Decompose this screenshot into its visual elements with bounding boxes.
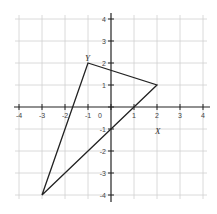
point-label-x: X xyxy=(154,126,161,136)
y-tick-label: 4 xyxy=(102,16,106,23)
x-tick-label: -4 xyxy=(16,112,22,119)
y-tick-label: -3 xyxy=(100,170,106,177)
y-tick-label: 2 xyxy=(102,60,106,67)
x-tick-label: 0 xyxy=(98,112,102,119)
x-tick-label: 1 xyxy=(132,112,136,119)
y-tick-label: -2 xyxy=(100,148,106,155)
y-tick-label: 3 xyxy=(102,38,106,45)
y-tick-label: 1 xyxy=(102,82,106,89)
y-tick-label: -1 xyxy=(100,126,106,133)
x-tick-label: -3 xyxy=(39,112,45,119)
y-tick-label: -4 xyxy=(100,192,106,199)
x-tick-label: -1 xyxy=(85,112,91,119)
x-tick-label: 4 xyxy=(201,112,205,119)
x-tick-label: 2 xyxy=(155,112,159,119)
x-tick-label: 3 xyxy=(178,112,182,119)
x-tick-label: -2 xyxy=(62,112,68,119)
vertex-label-y: Y xyxy=(85,53,91,63)
coordinate-plane: -4-3-2-1012344321-1-2-3-4 Y X xyxy=(0,0,217,214)
